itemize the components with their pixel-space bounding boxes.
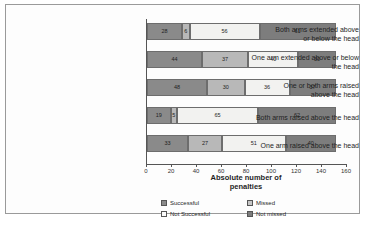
- category-label-line: One arm raised above the head: [233, 141, 359, 150]
- category-label: One arm extended above or belowthe head: [233, 53, 359, 71]
- x-tick-label-0: 0: [136, 168, 156, 174]
- bar-segment-successful[interactable]: 48: [147, 79, 207, 96]
- bar-segment-successful[interactable]: 44: [147, 51, 202, 68]
- x-tick-160: [346, 164, 347, 167]
- category-label: One or both arms raisedabove the head: [233, 81, 359, 99]
- bar-segment-successful[interactable]: 19: [147, 107, 171, 124]
- category-label-line: Both arms raised above the head: [233, 113, 359, 122]
- chart-legend: SuccessfulMissedNot SuccessfulNot missed: [161, 193, 336, 215]
- category-label: Both arms raised above the head: [233, 113, 359, 122]
- bar-segment-successful[interactable]: 28: [147, 23, 182, 40]
- x-tick-60: [221, 164, 222, 167]
- x-tick-80: [246, 164, 247, 167]
- legend-row: Not SuccessfulNot missed: [161, 204, 336, 215]
- bar-segment-missed[interactable]: 6: [182, 23, 190, 40]
- category-label-line: or below the head: [233, 34, 359, 43]
- bar-segment-successful[interactable]: 33: [147, 135, 188, 152]
- legend-item-not-missed[interactable]: Not missed: [247, 204, 333, 222]
- x-axis-title: Absolute number of penalties: [156, 173, 336, 191]
- legend-row: SuccessfulMissed: [161, 193, 336, 204]
- category-label: Both arms extended aboveor below the hea…: [233, 25, 359, 43]
- category-label-line: Both arms extended above: [233, 25, 359, 34]
- legend-swatch-icon: [247, 211, 253, 217]
- x-tick-120: [296, 164, 297, 167]
- category-label: One arm raised above the head: [233, 141, 359, 150]
- category-label-line: One or both arms raised: [233, 81, 359, 90]
- category-label-line: the head: [233, 62, 359, 71]
- category-label-line: above the head: [233, 90, 359, 99]
- legend-swatch-icon: [161, 211, 167, 217]
- x-axis-title-line1: Absolute number of: [156, 173, 336, 182]
- x-tick-100: [271, 164, 272, 167]
- x-tick-0: [146, 164, 147, 167]
- bar-segment-missed[interactable]: 27: [188, 135, 222, 152]
- x-axis-title-line2: penalties: [156, 182, 336, 191]
- x-tick-20: [171, 164, 172, 167]
- x-tick-140: [321, 164, 322, 167]
- legend-label: Not Successful: [170, 211, 210, 217]
- x-tick-label-160: 160: [336, 168, 356, 174]
- legend-item-not-successful[interactable]: Not Successful: [161, 204, 247, 222]
- x-tick-40: [196, 164, 197, 167]
- category-label-line: One arm extended above or below: [233, 53, 359, 62]
- chart-frame: 020406080100120140160 286566144374030483…: [5, 4, 360, 214]
- legend-label: Not missed: [256, 211, 286, 217]
